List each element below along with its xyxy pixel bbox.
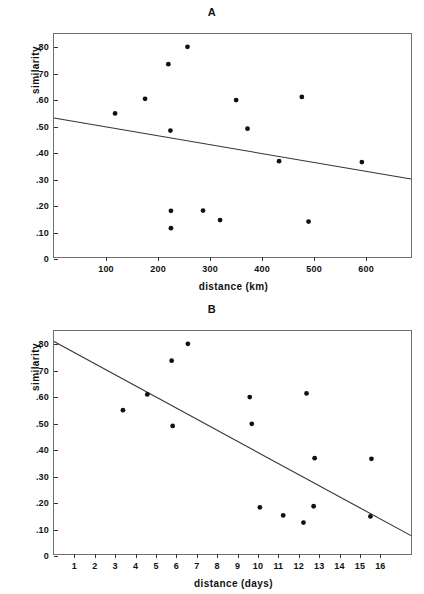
data-point [247, 395, 252, 400]
y-tick-label: .60 [36, 392, 49, 402]
scatter-canvas-a [54, 34, 411, 257]
x-tick-label: 1 [72, 561, 77, 571]
chart-panel-b: B similarity distance (days) 0.10.20.30.… [0, 297, 424, 594]
data-point [169, 226, 174, 231]
data-point [185, 44, 190, 49]
data-point [218, 218, 223, 223]
y-tick-mark [54, 153, 58, 154]
x-tick-label: 500 [306, 264, 322, 274]
x-tick-label: 300 [202, 264, 218, 274]
x-tick-label: 16 [375, 561, 385, 571]
x-tick-label: 200 [150, 264, 166, 274]
x-tick-mark [319, 554, 320, 558]
x-tick-label: 10 [253, 561, 263, 571]
y-tick-mark [54, 233, 58, 234]
y-tick-label: .80 [36, 42, 49, 52]
y-tick-label: .70 [36, 366, 49, 376]
y-tick-mark [54, 180, 58, 181]
x-tick-mark [299, 554, 300, 558]
y-tick-label: .40 [36, 148, 49, 158]
data-point [306, 219, 311, 224]
y-tick-mark [54, 206, 58, 207]
data-point [359, 160, 364, 165]
plot-area-a: similarity distance (km) 0.10.20.30.40.5… [53, 33, 412, 258]
y-tick-mark [54, 127, 58, 128]
data-point [281, 513, 286, 518]
x-tick-mark [360, 554, 361, 558]
regression-line [54, 341, 411, 535]
y-tick-label: .20 [36, 498, 49, 508]
y-tick-label: .60 [36, 95, 49, 105]
x-tick-mark [176, 554, 177, 558]
x-axis-label-b: distance (days) [54, 578, 413, 589]
data-point [245, 126, 250, 131]
x-axis-label-a: distance (km) [54, 281, 413, 292]
y-tick-label: .50 [36, 419, 49, 429]
y-tick-mark [54, 100, 58, 101]
data-point [169, 208, 174, 213]
y-tick-mark [54, 556, 58, 557]
data-point [257, 505, 262, 510]
x-tick-mark [258, 554, 259, 558]
data-point [304, 391, 309, 396]
y-tick-label: .40 [36, 445, 49, 455]
x-tick-mark [380, 554, 381, 558]
x-tick-label: 5 [153, 561, 158, 571]
x-tick-label: 15 [355, 561, 365, 571]
data-point [145, 392, 150, 397]
x-tick-label: 3 [113, 561, 118, 571]
x-tick-label: 6 [174, 561, 179, 571]
data-point [299, 95, 304, 100]
data-point [170, 424, 175, 429]
y-tick-mark [54, 74, 58, 75]
data-point [368, 514, 373, 519]
chart-title-a: A [0, 6, 424, 18]
scatter-canvas-b [54, 331, 411, 554]
y-tick-label: .10 [36, 525, 49, 535]
y-tick-mark [54, 477, 58, 478]
y-tick-mark [54, 344, 58, 345]
plot-area-b: similarity distance (days) 0.10.20.30.40… [53, 330, 412, 555]
y-tick-label: .30 [36, 472, 49, 482]
data-point [277, 159, 282, 164]
x-tick-label: 400 [254, 264, 270, 274]
x-tick-mark [106, 257, 107, 261]
data-point [113, 111, 118, 116]
x-tick-label: 7 [194, 561, 199, 571]
data-point [169, 358, 174, 363]
y-tick-label: .30 [36, 175, 49, 185]
x-tick-label: 2 [92, 561, 97, 571]
x-tick-label: 12 [294, 561, 304, 571]
data-point [249, 421, 254, 426]
data-point [166, 62, 171, 67]
data-point [311, 504, 316, 509]
y-tick-mark [54, 530, 58, 531]
x-tick-label: 4 [133, 561, 138, 571]
x-tick-mark [217, 554, 218, 558]
data-point [234, 98, 239, 103]
x-tick-label: 11 [273, 561, 283, 571]
y-tick-mark [54, 371, 58, 372]
data-point [369, 456, 374, 461]
x-tick-mark [278, 554, 279, 558]
y-tick-mark [54, 397, 58, 398]
x-tick-mark [136, 554, 137, 558]
data-point [301, 520, 306, 525]
chart-panel-a: A similarity distance (km) 0.10.20.30.40… [0, 0, 424, 297]
x-tick-mark [366, 257, 367, 261]
x-tick-mark [156, 554, 157, 558]
x-tick-label: 13 [314, 561, 324, 571]
x-tick-label: 600 [358, 264, 374, 274]
y-tick-label: 0 [44, 254, 49, 264]
data-point [168, 128, 173, 133]
x-tick-label: 8 [215, 561, 220, 571]
x-tick-mark [210, 257, 211, 261]
x-tick-mark [197, 554, 198, 558]
regression-line [54, 118, 411, 179]
x-tick-mark [238, 554, 239, 558]
x-tick-mark [340, 554, 341, 558]
y-tick-mark [54, 47, 58, 48]
y-tick-label: .70 [36, 69, 49, 79]
y-tick-mark [54, 503, 58, 504]
y-tick-label: .80 [36, 339, 49, 349]
